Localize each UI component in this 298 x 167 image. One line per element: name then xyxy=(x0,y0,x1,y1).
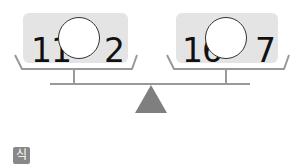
right-second-number: 7 xyxy=(255,33,275,69)
equation-label-badge: 식 xyxy=(13,147,30,164)
right-expression-box: 16 7 xyxy=(176,13,278,63)
fulcrum-triangle xyxy=(135,85,167,113)
right-blank-circle[interactable] xyxy=(205,17,247,59)
left-second-number: 2 xyxy=(104,33,124,69)
left-expression-box: 11 2 xyxy=(23,13,128,63)
left-blank-circle[interactable] xyxy=(58,17,100,59)
